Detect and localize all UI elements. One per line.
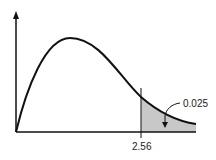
tail-area-label: 0.025 xyxy=(183,98,208,109)
y-axis-arrow-icon xyxy=(13,11,19,19)
chart: 2.56 0.025 xyxy=(0,0,216,160)
critical-value-label: 2.56 xyxy=(132,141,152,152)
